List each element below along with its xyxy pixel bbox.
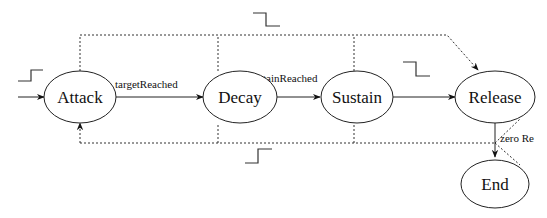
state-label-decay: Decay [218, 88, 262, 107]
rising-edge-icon [245, 149, 272, 163]
state-decay: Decay [203, 71, 277, 123]
top-dotted-bus [80, 35, 478, 71]
falling-edge-icon [253, 13, 280, 26]
state-attack: Attack [44, 71, 116, 123]
state-label-end: End [481, 175, 509, 194]
state-release: Release [455, 71, 535, 123]
rising-edge-icon [18, 70, 43, 81]
edge-label-target-reached: targetReached [115, 78, 178, 90]
edge-label-zero-re: zero Re [500, 132, 534, 144]
falling-edge-icon [403, 62, 430, 76]
state-label-release: Release [469, 88, 522, 107]
bottom-dotted-bus [80, 119, 520, 165]
state-label-sustain: Sustain [332, 88, 383, 107]
state-end: End [461, 160, 529, 208]
adsr-state-diagram: targetReached sustainReached zero Re Att… [0, 0, 547, 218]
state-label-attack: Attack [57, 88, 103, 107]
state-sustain: Sustain [321, 71, 393, 123]
